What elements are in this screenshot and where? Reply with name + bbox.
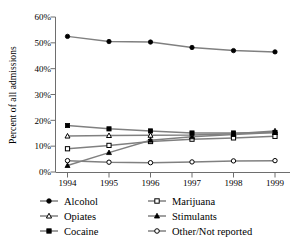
data-point-marker <box>273 50 277 54</box>
chart-container: Percent of all admissions 0%10%20%30%40%… <box>0 0 296 242</box>
data-point-marker <box>190 131 194 135</box>
legend-marker <box>155 229 160 234</box>
legend-marker <box>155 199 159 203</box>
data-point-marker <box>107 160 111 164</box>
x-tick-label: 1995 <box>100 178 119 188</box>
y-axis-title: Percent of all admissions <box>8 46 18 144</box>
y-tick-label: 20% <box>35 116 52 126</box>
data-point-marker <box>190 45 194 49</box>
data-point-marker <box>65 158 69 162</box>
data-point-marker <box>273 158 277 162</box>
y-tick-label: 30% <box>35 90 52 100</box>
y-tick-label: 60% <box>35 12 52 22</box>
legend-label: Other/Not reported <box>172 226 253 237</box>
data-point-marker <box>107 39 111 43</box>
data-point-marker <box>65 147 69 151</box>
data-point-marker <box>148 129 152 133</box>
data-point-marker <box>107 127 111 131</box>
legend-label: Cocaine <box>64 226 99 237</box>
legend-marker <box>47 199 52 204</box>
data-point-marker <box>231 131 235 135</box>
legend-marker <box>47 229 51 233</box>
y-tick-label: 0% <box>39 167 52 177</box>
data-point-marker <box>65 123 69 127</box>
data-point-marker <box>148 40 152 44</box>
x-tick-label: 1996 <box>142 178 161 188</box>
y-tick-label: 40% <box>35 64 52 74</box>
x-tick-label: 1994 <box>59 178 78 188</box>
x-tick-label: 1997 <box>183 178 202 188</box>
legend-label: Marijuana <box>172 196 215 207</box>
data-point-marker <box>190 160 194 164</box>
data-point-marker <box>273 130 277 134</box>
legend-label: Stimulants <box>172 211 217 222</box>
x-tick-label: 1999 <box>266 178 285 188</box>
line-chart: Percent of all admissions 0%10%20%30%40%… <box>0 0 296 242</box>
data-point-marker <box>148 161 152 165</box>
data-point-marker <box>107 143 111 147</box>
x-tick-label: 1998 <box>225 178 244 188</box>
y-tick-label: 50% <box>35 38 52 48</box>
data-point-marker <box>231 159 235 163</box>
data-point-marker <box>65 34 69 38</box>
legend-label: Alcohol <box>64 196 98 207</box>
data-point-marker <box>231 48 235 52</box>
y-tick-label: 10% <box>35 141 52 151</box>
legend-label: Opiates <box>64 211 96 222</box>
